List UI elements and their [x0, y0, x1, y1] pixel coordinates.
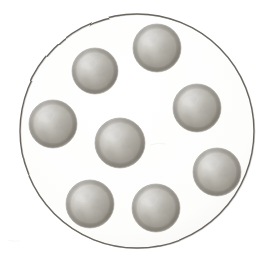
- sphere-body: [72, 48, 118, 94]
- sphere-body: [29, 100, 77, 148]
- sphere-upper-right: [173, 84, 221, 132]
- figure-canvas: Hand-drawn stippled illustration A large…: [0, 0, 271, 268]
- sphere-highlight: [81, 57, 97, 69]
- sphere-highlight: [75, 190, 91, 202]
- illustration-svg: [0, 0, 271, 268]
- sphere-body: [193, 148, 241, 196]
- sphere-bottom-left: [66, 180, 114, 228]
- sphere-body: [66, 180, 114, 228]
- sphere-body: [173, 84, 221, 132]
- sphere-highlight: [141, 194, 157, 206]
- sphere-center: [95, 118, 145, 168]
- sphere-highlight: [142, 34, 158, 46]
- sphere-bottom-center: [132, 184, 180, 232]
- sphere-body: [132, 184, 180, 232]
- sphere-body: [95, 118, 145, 168]
- sphere-left: [29, 100, 77, 148]
- sphere-body: [133, 24, 181, 72]
- sphere-highlight: [202, 158, 218, 170]
- sphere-lower-right: [193, 148, 241, 196]
- sphere-highlight: [182, 94, 198, 106]
- sphere-top: [133, 24, 181, 72]
- sphere-highlight: [105, 128, 122, 141]
- sphere-upper-left: [72, 48, 118, 94]
- sphere-highlight: [38, 110, 54, 122]
